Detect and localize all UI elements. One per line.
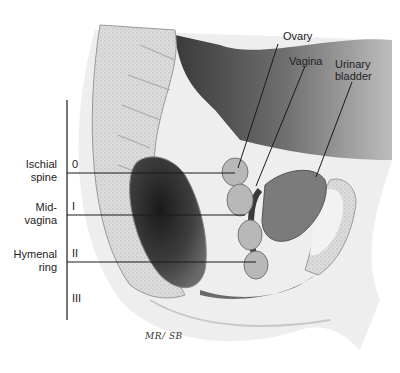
- label-hymenal-ring-2: ring: [39, 261, 57, 274]
- pelvis-illustration: [0, 0, 400, 373]
- artist-signature: MR/ SB: [145, 331, 183, 341]
- grade-2: II: [72, 247, 78, 259]
- label-urinary-bladder-2: bladder: [335, 70, 372, 83]
- label-ischial-spine-1: Ischial: [26, 158, 57, 171]
- label-ischial-spine-2: spine: [31, 171, 57, 184]
- label-mid-vagina-1: Mid-: [36, 201, 57, 214]
- grade-3: III: [72, 292, 81, 304]
- grade-1: I: [72, 200, 75, 212]
- label-vagina: Vagina: [289, 55, 322, 68]
- label-ovary: Ovary: [283, 30, 312, 43]
- label-hymenal-ring-1: Hymenal: [14, 248, 57, 261]
- grade-0: 0: [72, 158, 78, 170]
- label-mid-vagina-2: vagina: [25, 214, 57, 227]
- anatomy-figure: [0, 0, 400, 373]
